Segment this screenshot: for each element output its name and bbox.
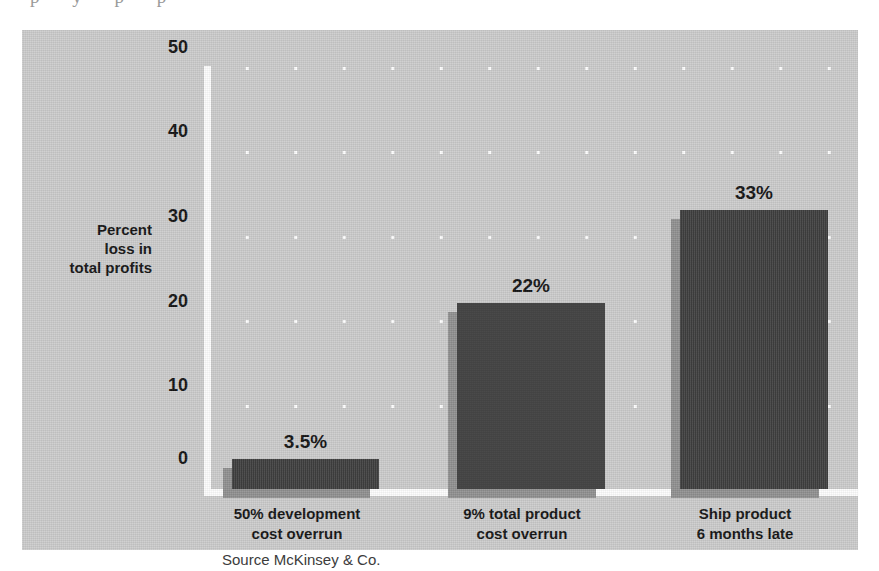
source-attribution: Source McKinsey & Co. — [222, 551, 380, 568]
x-axis-category-label-3-line-1: Ship product — [645, 504, 845, 524]
y-axis-tick-20: 20 — [140, 291, 188, 312]
chart-panel: Percent loss in total profits 50 40 30 2… — [22, 30, 858, 550]
gridline-50 — [211, 66, 859, 71]
y-axis-tick-40: 40 — [140, 121, 188, 142]
bar-9-percent-total-product-cost-overrun[interactable]: 22% — [457, 303, 605, 489]
gridline-40 — [211, 150, 859, 155]
plot-area: 3.5% 22% 33% — [211, 66, 859, 489]
bar-50-percent-development-cost-overrun[interactable]: 3.5% — [232, 459, 379, 489]
x-axis-category-label-2: 9% total product cost overrun — [422, 504, 622, 543]
y-axis-tick-10: 10 — [140, 375, 188, 396]
bar-value-label: 22% — [457, 275, 605, 297]
x-axis-category-label-1-line-1: 50% development — [197, 504, 397, 524]
bar-fill — [457, 303, 605, 489]
x-axis-category-label-3: Ship product 6 months late — [645, 504, 845, 543]
bar-value-label: 33% — [680, 182, 828, 204]
x-axis-category-label-2-line-2: cost overrun — [422, 524, 622, 544]
y-axis-line — [204, 66, 211, 494]
y-axis-title-line-3: total profits — [36, 258, 152, 277]
x-axis-category-label-1: 50% development cost overrun — [197, 504, 397, 543]
scan-top-text: p y p p — [30, 0, 180, 8]
x-axis-category-label-1-line-2: cost overrun — [197, 524, 397, 544]
y-axis-title-line-1: Percent — [36, 220, 152, 239]
y-axis-title: Percent loss in total profits — [36, 220, 152, 278]
bar-ship-product-6-months-late[interactable]: 33% — [680, 210, 828, 489]
y-axis-title-line-2: loss in — [36, 239, 152, 258]
bar-value-label: 3.5% — [232, 431, 379, 453]
scan-top-text-sliver: p y p p — [0, 0, 879, 14]
x-axis-category-label-3-line-2: 6 months late — [645, 524, 845, 544]
y-axis-tick-30: 30 — [140, 206, 188, 227]
bar-fill — [232, 459, 379, 489]
bar-fill — [680, 210, 828, 489]
x-axis-category-label-2-line-1: 9% total product — [422, 504, 622, 524]
y-axis-tick-0: 0 — [140, 448, 188, 469]
y-axis-tick-50: 50 — [140, 37, 188, 58]
